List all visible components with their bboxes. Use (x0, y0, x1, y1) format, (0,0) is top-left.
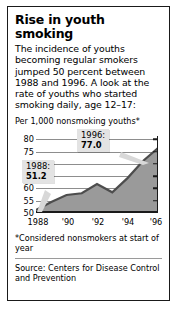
chart-footnote: *Considered nonsmokers at start of year (15, 233, 162, 253)
callout-1996: 1996: 77.0 (77, 129, 109, 152)
area-chart: 80 75 70 65 60 55 50 (15, 130, 164, 230)
y-tick-60: 60 (24, 184, 34, 192)
callout-1988-year: 1988: (26, 161, 50, 171)
y-axis-right-line (157, 136, 159, 213)
x-tick-1996: '96 (150, 218, 163, 227)
description-text: The incidence of youths becoming regular… (15, 43, 162, 111)
x-tick-1990: '90 (62, 218, 75, 227)
divider (15, 258, 162, 259)
chart-units-label: Per 1,000 nonsmoking youths* (15, 116, 162, 126)
callout-1996-value: 77.0 (81, 140, 105, 150)
callout-1996-year: 1996: (81, 130, 105, 140)
y-tick-75: 75 (24, 148, 34, 156)
x-tick-1992: '92 (92, 218, 105, 227)
x-tick-1994: '94 (122, 218, 135, 227)
y-tick-80: 80 (24, 135, 34, 143)
callout-1988: 1988: 51.2 (22, 160, 54, 183)
y-tick-50: 50 (24, 209, 34, 217)
x-tick-1988: 1988 (28, 218, 49, 227)
callout-1988-value: 51.2 (26, 171, 50, 181)
infographic-card: Rise in youth smoking The incidence of y… (7, 6, 170, 301)
page-title: Rise in youth smoking (15, 13, 162, 41)
chart-source: Source: Centers for Disease Control and … (15, 263, 162, 283)
y-tick-55: 55 (24, 197, 34, 205)
x-axis-line (36, 211, 158, 213)
